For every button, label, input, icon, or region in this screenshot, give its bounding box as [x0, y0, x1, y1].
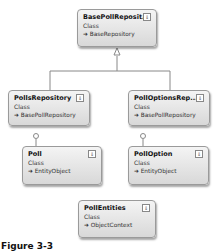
collapse-toggle-icon[interactable]: ⇓	[195, 150, 203, 158]
figure-caption: Figure 3-3	[1, 241, 53, 251]
class-name: PollOption	[134, 150, 196, 159]
base-class: ➜ BaseRepository	[83, 30, 151, 38]
class-kind: Class	[134, 159, 203, 167]
class-box-poll[interactable]: Poll Class ➜ EntityObject ⇓	[22, 146, 102, 185]
class-kind: Class	[28, 159, 96, 167]
base-class: ➜ ObjectContext	[84, 221, 150, 229]
class-box-poll-option[interactable]: PollOption Class ➜ EntityObject ⇓	[128, 146, 209, 185]
class-name: BasePollReposit...	[83, 13, 145, 22]
class-box-polls-repository[interactable]: PollsRepository Class ➜ BasePollReposito…	[8, 90, 90, 126]
collapse-toggle-icon[interactable]: ⇓	[76, 94, 84, 102]
inheritance-arrow-icon	[114, 48, 120, 55]
base-class: ➜ EntityObject	[134, 167, 203, 175]
class-name: Poll	[28, 150, 90, 159]
base-class: ➜ EntityObject	[28, 167, 96, 175]
collapse-toggle-icon[interactable]: ⇓	[196, 94, 204, 102]
class-kind: Class	[84, 213, 150, 221]
class-box-poll-options-repository[interactable]: PollOptionsRep... Class ➜ BasePollReposi…	[128, 90, 210, 126]
class-kind: Class	[14, 103, 84, 111]
class-box-poll-entities[interactable]: PollEntities Class ➜ ObjectContext ⇓	[78, 200, 156, 238]
class-name: PollsRepository	[14, 94, 76, 103]
class-name: PollEntities	[84, 204, 146, 213]
base-class: ➜ BasePollRepository	[14, 111, 84, 119]
interface-lollipop-icon	[141, 134, 146, 139]
class-name: PollOptionsRep...	[134, 94, 196, 103]
collapse-toggle-icon[interactable]: ⇓	[142, 204, 150, 212]
class-box-base-poll-repository[interactable]: BasePollReposit... Class ➜ BaseRepositor…	[77, 9, 157, 47]
class-kind: Class	[134, 103, 204, 111]
base-class: ➜ BasePollRepository	[134, 111, 204, 119]
interface-lollipop-icon	[34, 134, 39, 139]
collapse-toggle-icon[interactable]: ⇓	[88, 150, 96, 158]
class-kind: Class	[83, 22, 151, 30]
collapse-toggle-icon[interactable]: ⇓	[143, 13, 151, 21]
